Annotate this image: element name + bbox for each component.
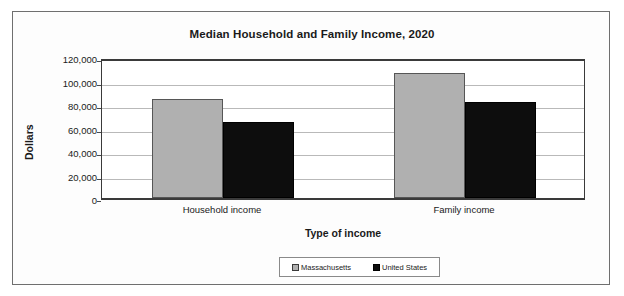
y-axis-tickmark — [97, 201, 101, 202]
chart-screenshot: Median Household and Family Income, 2020… — [0, 0, 624, 296]
legend-item: United States — [373, 263, 427, 272]
gridline — [102, 85, 584, 86]
y-axis-tick-labels: 120,000100,00080,00060,00040,00020,0000 — [37, 53, 101, 195]
legend-item: Massachusetts — [292, 263, 351, 272]
y-axis-tick-label: 100,000 — [63, 77, 97, 88]
y-axis-tickmark — [97, 61, 101, 62]
legend-swatch-icon — [292, 264, 299, 271]
y-axis-tick-label: 120,000 — [63, 54, 97, 65]
y-axis-tick-label: 60,000 — [68, 124, 97, 135]
x-axis-title: Type of income — [101, 227, 585, 239]
bar-united-states-family-income — [465, 102, 536, 198]
y-axis-tickmark — [97, 179, 101, 180]
legend-swatch-icon — [373, 264, 380, 271]
plot-area — [101, 59, 585, 200]
y-axis-tickmark — [97, 155, 101, 156]
y-axis-tickmark — [97, 85, 101, 86]
y-axis-title: Dollars — [21, 107, 37, 177]
bar-united-states-household-income — [223, 122, 294, 198]
legend-label: United States — [382, 263, 427, 272]
chart-legend: MassachusettsUnited States — [279, 257, 440, 277]
y-axis-tick-label: 20,000 — [68, 171, 97, 182]
x-axis-category-label: Household income — [183, 204, 262, 215]
y-axis-tick-label: 80,000 — [68, 101, 97, 112]
bar-massachusetts-household-income — [152, 99, 223, 198]
legend-label: Massachusetts — [301, 263, 351, 272]
y-axis-tick-label: 0 — [92, 195, 97, 206]
y-axis-tickmark — [97, 108, 101, 109]
x-axis-category-labels: Household incomeFamily income — [101, 204, 585, 220]
x-axis-category-label: Family income — [433, 204, 494, 215]
chart-frame: Median Household and Family Income, 2020… — [12, 11, 610, 285]
chart-title: Median Household and Family Income, 2020 — [13, 28, 611, 40]
bar-massachusetts-family-income — [394, 73, 465, 198]
y-axis-tick-label: 40,000 — [68, 148, 97, 159]
y-axis-tickmark — [97, 132, 101, 133]
